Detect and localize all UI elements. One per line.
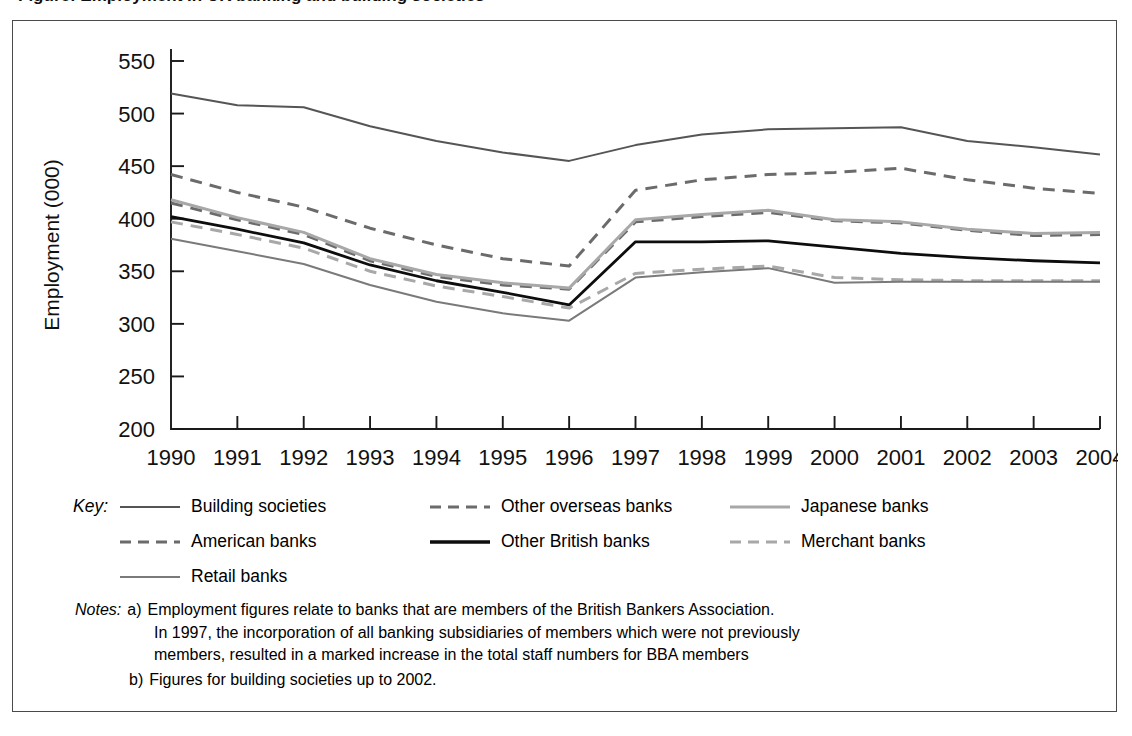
y-axis-title: Employment (000) <box>40 159 63 331</box>
note-a-line-3: members, resulted in a marked increase i… <box>154 644 1096 667</box>
x-axis-tick-label: 2000 <box>810 445 859 470</box>
y-axis-tick-label: 400 <box>118 207 155 232</box>
note-a-line-1: Notes: a) Employment figures relate to b… <box>75 599 1096 622</box>
line-swatch-icon <box>729 535 791 549</box>
line-swatch-icon <box>429 535 491 549</box>
chart-axes <box>171 49 1100 429</box>
line-swatch-icon <box>429 500 491 514</box>
x-axis-tick-label: 1995 <box>478 445 527 470</box>
legend-label: American banks <box>191 531 316 552</box>
x-axis-tick-label: 2003 <box>1009 445 1058 470</box>
y-axis-tick-label: 450 <box>118 154 155 179</box>
x-axis-tick-label: 1990 <box>147 445 196 470</box>
x-axis-tick-label: 1993 <box>346 445 395 470</box>
note-a-text-1: Employment figures relate to banks that … <box>147 599 1096 622</box>
legend-entry-building-societies: Building societies <box>119 496 429 517</box>
figure-frame: 2002503003504004505005501990199119921993… <box>12 20 1117 712</box>
legend-row: American banks Other British banks Merch… <box>13 524 1118 559</box>
y-axis-tick-label: 550 <box>118 49 155 74</box>
chart-legend: Key: Building societies Other overseas b… <box>13 489 1118 594</box>
legend-entry-other-overseas-banks: Other overseas banks <box>429 496 729 517</box>
note-marker-b: b) <box>129 669 143 692</box>
line-chart: 2002503003504004505005501990199119921993… <box>13 21 1118 491</box>
x-axis-tick-label: 1997 <box>611 445 660 470</box>
note-marker-a: a) <box>127 599 141 622</box>
y-axis-tick-label: 500 <box>118 102 155 127</box>
legend-row: Retail banks <box>13 559 1118 594</box>
legend-entry-japanese-banks: Japanese banks <box>729 496 1009 517</box>
legend-label: Retail banks <box>191 566 287 587</box>
legend-label: Other overseas banks <box>501 496 672 517</box>
legend-entry-retail-banks: Retail banks <box>119 566 429 587</box>
figure-title-text: Figure: Employment in UK banking and bui… <box>18 0 485 6</box>
x-axis-tick-label: 1996 <box>545 445 594 470</box>
legend-key-label: Key: <box>73 496 119 517</box>
x-axis-tick-label: 1991 <box>213 445 262 470</box>
notes-label: Notes: <box>75 599 121 622</box>
line-swatch-icon <box>119 500 181 514</box>
x-axis-tick-label: 1998 <box>677 445 726 470</box>
line-swatch-icon <box>119 535 181 549</box>
figure-title-cropped: Figure: Employment in UK banking and bui… <box>0 0 1132 14</box>
line-swatch-icon <box>119 570 181 584</box>
chart-series-line <box>171 94 1100 161</box>
x-axis-tick-label: 1992 <box>279 445 328 470</box>
x-axis-tick-label: 1994 <box>412 445 461 470</box>
legend-label: Merchant banks <box>801 531 926 552</box>
x-axis-tick-label: 2004 <box>1076 445 1118 470</box>
chart-plot-area: 2002503003504004505005501990199119921993… <box>13 21 1118 491</box>
y-axis-tick-label: 250 <box>118 364 155 389</box>
note-b-text-1: Figures for building societies up to 200… <box>149 669 1096 692</box>
note-b-line-1: b) Figures for building societies up to … <box>129 669 1096 692</box>
y-axis-tick-label: 300 <box>118 312 155 337</box>
legend-row: Key: Building societies Other overseas b… <box>13 489 1118 524</box>
legend-label: Other British banks <box>501 531 650 552</box>
legend-entry-merchant-banks: Merchant banks <box>729 531 1009 552</box>
legend-entry-american-banks: American banks <box>119 531 429 552</box>
chart-notes: Notes: a) Employment figures relate to b… <box>13 599 1118 692</box>
legend-entry-other-british-banks: Other British banks <box>429 531 729 552</box>
x-axis-tick-label: 1999 <box>744 445 793 470</box>
legend-label: Japanese banks <box>801 496 928 517</box>
y-axis-tick-label: 350 <box>118 259 155 284</box>
line-swatch-icon <box>729 500 791 514</box>
note-a-line-2: In 1997, the incorporation of all bankin… <box>154 622 1096 645</box>
legend-label: Building societies <box>191 496 326 517</box>
x-axis-tick-label: 2002 <box>943 445 992 470</box>
x-axis-tick-label: 2001 <box>876 445 925 470</box>
y-axis-tick-label: 200 <box>118 417 155 442</box>
